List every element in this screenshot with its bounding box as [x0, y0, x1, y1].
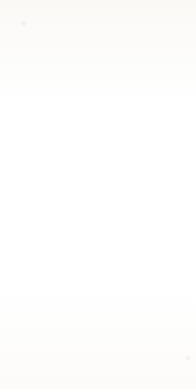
frac-numerator-pi-left: π: [26, 236, 35, 249]
curve-branch-left: [18, 72, 67, 252]
frac-numerator-pi-right: π: [101, 236, 110, 249]
x-tick-label-pi: π: [141, 238, 148, 252]
branch-right-lower-path: [158, 259, 178, 382]
curve-branch-right-upper: [110, 78, 141, 228]
y-tick-label-neg2: -2: [39, 269, 52, 285]
y-axis-label: y: [62, 14, 70, 31]
x-tick-label-half-pi: π 2: [99, 236, 112, 266]
x-axis-label: x: [180, 219, 188, 236]
figure-canvas: y x 4 -2 -4 − π 2 π 2 π: [0, 0, 196, 389]
frac-denominator-2-right: 2: [102, 252, 109, 266]
y-tick-label-neg4: -4: [39, 346, 52, 362]
x-tick-label-neg-half-pi: π 2: [24, 236, 37, 266]
branch-right-upper-path: [110, 78, 141, 228]
tangent-graph-svg: [0, 0, 196, 389]
frac-denominator-2-left: 2: [27, 252, 34, 266]
y-tick-label-4: 4: [47, 93, 55, 109]
x-tick-label-neg-half-pi-sign: −: [13, 243, 21, 258]
branch-left-path: [18, 72, 67, 252]
curve-branch-right-lower: [158, 259, 178, 384]
